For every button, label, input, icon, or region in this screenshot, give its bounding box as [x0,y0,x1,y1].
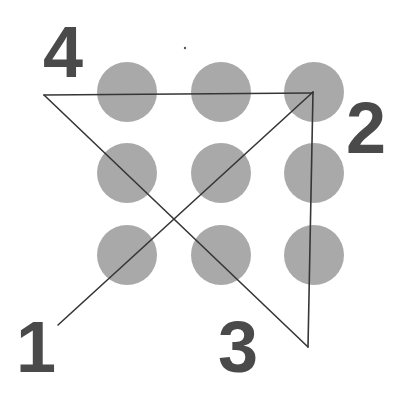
dot-r2c3 [284,143,344,203]
dot-grid [97,62,344,285]
nine-dots-diagram: 4 2 1 3 [0,0,408,398]
dot-r1c3 [284,62,344,122]
dot-r3c2 [191,225,251,285]
segment-1-to-2 [58,92,313,325]
dot-r3c1 [97,225,157,285]
dot-r2c2 [191,143,251,203]
segment-4-to-2 [44,93,313,95]
scan-speck [184,47,186,49]
label-step-4: 4 [43,12,83,92]
label-step-2: 2 [346,88,386,168]
solution-path [44,92,313,347]
segment-2-to-3 [308,92,313,347]
dot-r3c3 [284,225,344,285]
dot-r1c2 [191,62,251,122]
label-step-1: 1 [16,307,56,387]
dot-r1c1 [97,62,157,122]
label-step-3: 3 [218,307,258,387]
